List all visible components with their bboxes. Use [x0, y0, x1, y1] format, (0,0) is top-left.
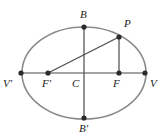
point-b [81, 24, 86, 29]
label-v: V [150, 78, 157, 89]
label-p: P [124, 18, 131, 29]
point-v-prime [18, 70, 23, 75]
point-f-prime [45, 70, 50, 75]
point-p [116, 34, 121, 39]
label-b-prime: B' [79, 123, 88, 134]
label-b: B [80, 9, 87, 20]
label-f: F [113, 78, 120, 89]
ellipse-diagram-canvas [0, 0, 167, 140]
point-b-prime [81, 115, 86, 120]
label-c: C [72, 78, 79, 89]
label-f-prime: F' [42, 78, 51, 89]
point-f [116, 70, 121, 75]
label-v-prime: V' [3, 78, 12, 89]
point-v [142, 70, 147, 75]
ellipse-figure: B P V' F' C F V B' [0, 0, 167, 140]
